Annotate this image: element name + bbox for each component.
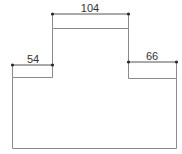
shape-base xyxy=(13,78,177,149)
top-dimension-label: 104 xyxy=(81,2,99,14)
right-step-dimension-label: 66 xyxy=(146,50,158,62)
shape-outline xyxy=(53,29,129,66)
left-step-dimension-label: 54 xyxy=(27,53,39,65)
shape-right-step xyxy=(129,62,177,79)
shape-left-step xyxy=(13,65,53,78)
top-dimension-endpoint-right xyxy=(127,12,130,15)
right-step-endpoint-right xyxy=(175,60,178,63)
left-step-endpoint-left xyxy=(11,63,14,66)
top-dimension-endpoint-left xyxy=(51,12,54,15)
stepped-profile-diagram: 104 54 66 xyxy=(0,0,182,154)
left-step-endpoint-right xyxy=(51,63,54,66)
right-step-endpoint-left xyxy=(127,60,130,63)
